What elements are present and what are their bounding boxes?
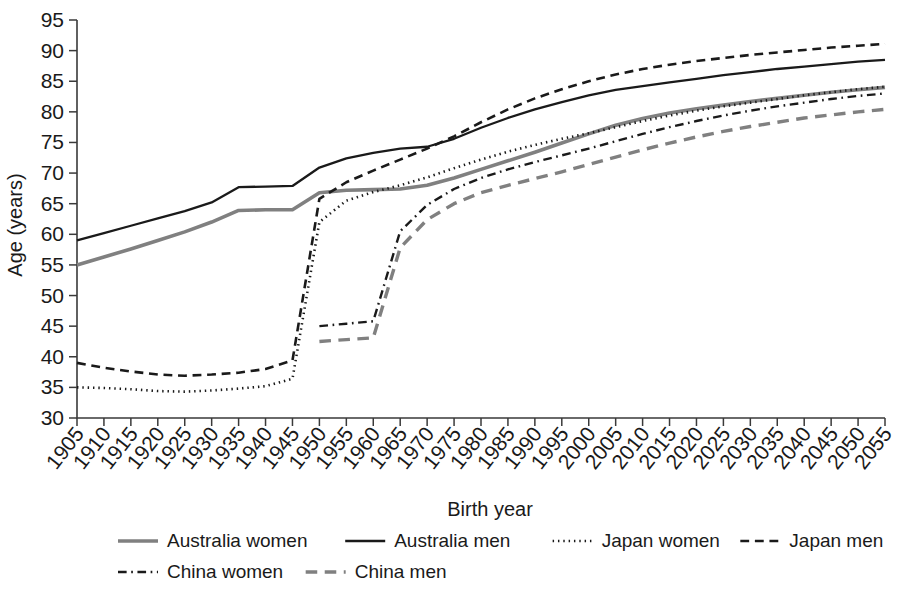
chart-figure: 3035404550556065707580859095190519101915…: [0, 0, 904, 589]
x-axis-title: Birth year: [447, 498, 533, 520]
y-tick-label: 60: [41, 222, 64, 245]
series-line-japan-women: [77, 87, 885, 392]
legend-label-australia-men: Australia men: [394, 530, 510, 551]
y-tick-label: 75: [41, 130, 64, 153]
legend-label-australia-women: Australia women: [167, 530, 307, 551]
series-line-japan-men: [77, 44, 885, 376]
y-tick-label: 65: [41, 192, 64, 215]
y-tick-label: 30: [41, 406, 64, 429]
chart-legend: Australia womenAustralia menJapan womenJ…: [118, 530, 883, 582]
y-tick-label: 90: [41, 39, 64, 62]
y-tick-label: 70: [41, 161, 64, 184]
y-tick-label: 40: [41, 345, 64, 368]
series-lines: [77, 44, 885, 392]
line-chart-svg: 3035404550556065707580859095190519101915…: [0, 0, 904, 589]
axis-frame: [77, 20, 885, 418]
y-tick-label: 45: [41, 314, 64, 337]
y-tick-label: 95: [41, 8, 64, 31]
y-tick-label: 85: [41, 69, 64, 92]
legend-label-japan-men: Japan men: [789, 530, 883, 551]
y-tick-label: 55: [41, 253, 64, 276]
y-tick-label: 80: [41, 100, 64, 123]
y-tick-label: 50: [41, 284, 64, 307]
legend-label-china-men: China men: [355, 561, 447, 582]
legend-label-china-women: China women: [167, 561, 283, 582]
series-line-australia-women: [77, 87, 885, 265]
axes: [77, 20, 885, 418]
series-line-australia-men: [77, 60, 885, 241]
legend-label-japan-women: Japan women: [602, 530, 720, 551]
y-tick-label: 35: [41, 375, 64, 398]
axis-tick-labels: 3035404550556065707580859095190519101915…: [41, 8, 897, 473]
axis-ticks: [69, 20, 885, 426]
y-axis-title: Age (years): [4, 173, 26, 276]
